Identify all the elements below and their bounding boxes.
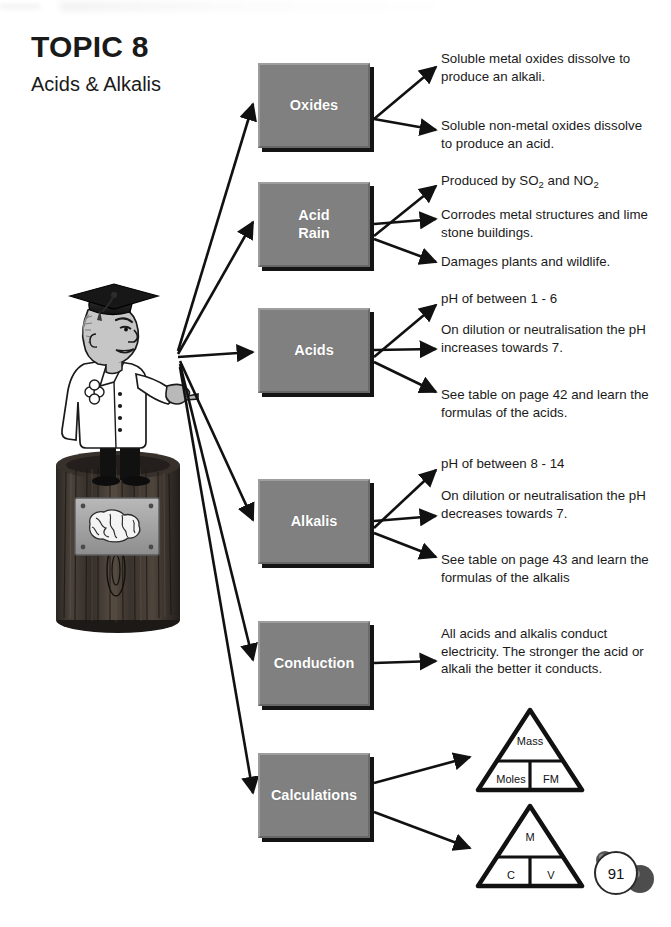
page-number-badge: 91 xyxy=(594,851,638,895)
note-acidrain-2: Corrodes metal structures and lime stone… xyxy=(441,206,656,241)
node-label: Calculations xyxy=(271,787,357,804)
node-label: AcidRain xyxy=(298,207,329,241)
triangle-mass-left: Moles xyxy=(496,773,526,785)
arrow-alkalis-note-1 xyxy=(374,470,436,528)
arrow-acidrain-note-2 xyxy=(374,219,436,224)
node-oxides[interactable]: Oxides xyxy=(258,63,370,148)
brain-plaque xyxy=(75,498,159,555)
arrow-to-triangle-conc xyxy=(374,812,470,848)
node-acids[interactable]: Acids xyxy=(258,308,370,393)
page-title: TOPIC 8 xyxy=(31,30,149,64)
note-acids-2: On dilution or neutralisation the pH inc… xyxy=(441,321,656,356)
triangle-conc-top: M xyxy=(525,831,534,843)
note-oxides-2: Soluble non-metal oxides dissolve to pro… xyxy=(441,117,656,152)
note-conduction-1: All acids and alkalis conduct electricit… xyxy=(441,625,656,678)
arrow-acidrain-note-1 xyxy=(374,186,436,236)
arrow-conduction-note-1 xyxy=(374,661,436,663)
note-acids-3: See table on page 42 and learn the formu… xyxy=(441,386,656,421)
arrow-oxides-note-2 xyxy=(374,119,436,130)
node-label: Oxides xyxy=(290,97,338,114)
node-acid-rain[interactable]: AcidRain xyxy=(258,182,370,267)
node-label: Conduction xyxy=(274,655,355,672)
formula-triangle-mass: Mass Moles FM xyxy=(478,710,582,790)
node-alkalis[interactable]: Alkalis xyxy=(258,479,370,564)
note-acids-1: pH of between 1 - 6 xyxy=(441,290,656,308)
scan-artifact xyxy=(60,2,460,11)
arrow-oxides-note-1 xyxy=(374,67,436,119)
node-calculations[interactable]: Calculations xyxy=(258,753,370,838)
node-label: Alkalis xyxy=(291,513,338,530)
page-root: TOPIC 8 Acids & Alkalis xyxy=(0,0,671,927)
triangle-conc-right: V xyxy=(547,869,555,881)
figure-coat xyxy=(62,360,146,448)
note-alkalis-1: pH of between 8 - 14 xyxy=(441,455,656,473)
arrow-alkalis-note-3 xyxy=(374,533,436,557)
note-alkalis-3: See table on page 43 and learn the formu… xyxy=(441,551,656,586)
triangle-mass-right: FM xyxy=(543,773,559,785)
arrow-acids-note-3 xyxy=(374,362,436,392)
page-subtitle: Acids & Alkalis xyxy=(31,73,161,96)
formula-triangle-concentration: M C V xyxy=(478,806,582,886)
arrow-acids-note-1 xyxy=(374,305,436,357)
scan-artifact-edge xyxy=(0,4,40,9)
note-oxides-1: Soluble metal oxides dissolve to produce… xyxy=(441,50,656,85)
professor-illustration xyxy=(28,282,208,642)
note-acidrain-1: Produced by SO2 and NO2 xyxy=(441,172,656,191)
triangle-conc-left: C xyxy=(507,869,515,881)
arrow-acids-note-2 xyxy=(374,349,436,350)
node-label: Acids xyxy=(294,342,334,359)
arrow-alkalis-note-2 xyxy=(374,516,436,521)
node-conduction[interactable]: Conduction xyxy=(258,621,370,706)
note-acidrain-3: Damages plants and wildlife. xyxy=(441,253,656,271)
arrow-to-triangle-mass xyxy=(374,757,470,783)
arrow-acidrain-note-3 xyxy=(374,239,436,262)
triangle-mass-top: Mass xyxy=(517,735,544,747)
note-alkalis-2: On dilution or neutralisation the pH dec… xyxy=(441,487,656,522)
